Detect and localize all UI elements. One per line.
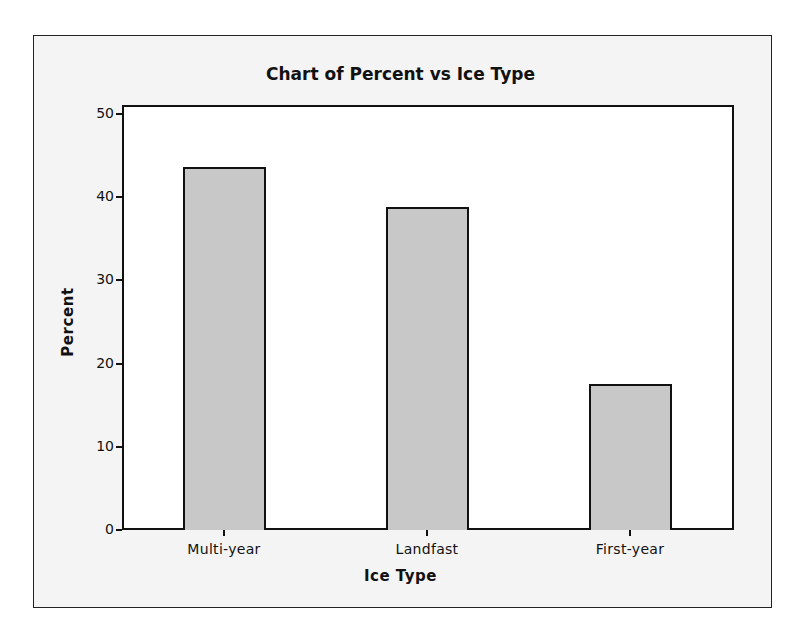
x-tick-label: Multi-year [154,541,294,557]
y-tick-label: 10 [84,438,114,454]
y-tick [116,363,122,365]
y-axis-title: Percent [59,287,77,357]
y-tick [116,446,122,448]
y-tick-label: 40 [84,188,114,204]
y-tick [116,279,122,281]
x-tick [426,530,428,536]
y-tick-label: 0 [84,521,114,537]
y-tick-label: 20 [84,355,114,371]
x-axis-title: Ice Type [0,567,801,585]
x-tick-label: Landfast [357,541,497,557]
x-tick [629,530,631,536]
x-tick [223,530,225,536]
bar-landfast [386,207,469,530]
x-tick-label: First-year [560,541,700,557]
bar-multi-year [183,167,266,530]
y-tick-label: 30 [84,271,114,287]
bar-first-year [589,384,672,530]
chart-title: Chart of Percent vs Ice Type [0,64,801,84]
y-tick [116,113,122,115]
y-tick [116,196,122,198]
y-tick-label: 50 [84,105,114,121]
y-tick [116,529,122,531]
